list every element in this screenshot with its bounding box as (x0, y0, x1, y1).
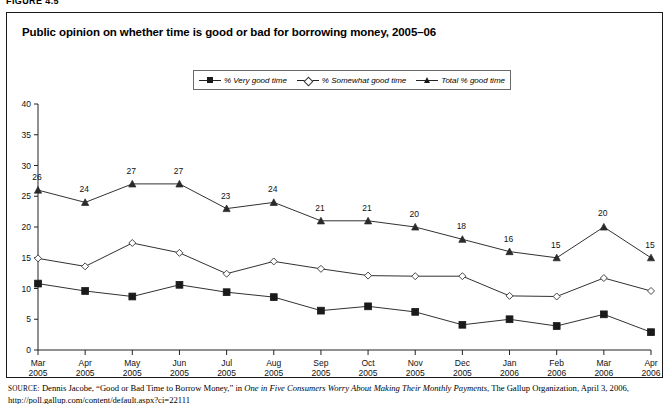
y-tick-label: 0 (26, 345, 31, 355)
data-label: 15 (551, 240, 561, 250)
series-line (38, 243, 651, 297)
data-point-triangle (270, 199, 277, 206)
x-tick-label: Jun (173, 358, 187, 368)
x-tick-label: 2006 (642, 368, 661, 378)
chart-plot-area: 0510152025303540Mar2005Apr2005May2005Jun… (0, 0, 671, 404)
x-tick-label: Jul (221, 358, 232, 368)
data-point-square (35, 280, 42, 287)
data-label: 16 (504, 234, 514, 244)
data-point-square (459, 321, 466, 328)
x-tick-label: 2006 (547, 368, 566, 378)
x-tick-label: 2005 (264, 368, 283, 378)
data-point-diamond (317, 265, 324, 272)
y-tick-label: 10 (22, 284, 32, 294)
chart-svg: 0510152025303540Mar2005Apr2005May2005Jun… (0, 0, 671, 404)
data-point-square (600, 311, 607, 318)
y-tick-label: 15 (22, 253, 32, 263)
source-italic-title: One in Five Consumers Worry About Making… (244, 383, 487, 393)
source-text-a: Dennis Jacobe, “Good or Bad Time to Borr… (40, 383, 244, 393)
data-point-triangle (647, 254, 654, 261)
x-tick-label: 2005 (217, 368, 236, 378)
x-tick-label: Jan (503, 358, 517, 368)
data-point-triangle (600, 223, 607, 230)
x-tick-label: Mar (597, 358, 612, 368)
data-point-square (412, 308, 419, 315)
data-point-square (176, 281, 183, 288)
data-point-diamond (506, 292, 513, 299)
data-label: 20 (409, 209, 419, 219)
data-point-diamond (35, 255, 42, 262)
x-tick-label: Dec (455, 358, 471, 368)
data-label: 24 (268, 184, 278, 194)
y-tick-label: 30 (22, 161, 32, 171)
data-label: 18 (457, 221, 467, 231)
x-tick-label: 2005 (29, 368, 48, 378)
data-point-square (648, 329, 655, 336)
data-label: 21 (362, 203, 372, 213)
x-tick-label: 2005 (359, 368, 378, 378)
x-tick-label: 2005 (406, 368, 425, 378)
data-point-diamond (82, 263, 89, 270)
data-point-square (270, 294, 277, 301)
data-point-diamond (270, 258, 277, 265)
data-label: 24 (79, 184, 89, 194)
data-point-square (506, 316, 513, 323)
y-tick-label: 5 (26, 314, 31, 324)
x-tick-label: Apr (644, 358, 657, 368)
source-text-b: , The Gallup (487, 383, 530, 393)
x-tick-label: 2005 (311, 368, 330, 378)
x-tick-label: Feb (549, 358, 564, 368)
x-tick-label: Oct (361, 358, 375, 368)
x-tick-label: 2005 (170, 368, 189, 378)
x-tick-label: Mar (31, 358, 46, 368)
data-point-diamond (176, 249, 183, 256)
data-point-square (365, 303, 372, 310)
x-tick-label: 2006 (500, 368, 519, 378)
data-point-diamond (459, 273, 466, 280)
data-label: 23 (221, 191, 231, 201)
data-point-square (318, 307, 325, 314)
data-point-diamond (553, 293, 560, 300)
y-tick-label: 25 (22, 191, 32, 201)
data-point-square (223, 289, 230, 296)
data-point-square (553, 323, 560, 330)
x-tick-label: 2005 (453, 368, 472, 378)
x-tick-label: Apr (79, 358, 92, 368)
data-point-square (129, 293, 136, 300)
data-point-diamond (223, 270, 230, 277)
data-label: 27 (127, 166, 137, 176)
x-tick-label: Nov (408, 358, 424, 368)
source-prefix: SOURCE: (8, 385, 40, 393)
data-label: 26 (32, 172, 42, 182)
y-tick-label: 20 (22, 222, 32, 232)
data-point-diamond (648, 287, 655, 294)
x-tick-label: Sep (313, 358, 328, 368)
x-tick-label: 2005 (123, 368, 142, 378)
data-point-diamond (365, 272, 372, 279)
x-tick-label: 2006 (594, 368, 613, 378)
data-point-diamond (129, 239, 136, 246)
source-note: SOURCE: Dennis Jacobe, “Good or Bad Time… (8, 383, 668, 404)
data-label: 15 (645, 240, 655, 250)
x-tick-label: May (124, 358, 141, 368)
data-label: 20 (598, 208, 608, 218)
data-point-diamond (600, 275, 607, 282)
data-point-square (82, 288, 89, 295)
x-tick-label: Aug (266, 358, 281, 368)
y-tick-label: 35 (22, 130, 32, 140)
data-point-triangle (34, 187, 41, 194)
x-tick-label: 2005 (76, 368, 95, 378)
data-label: 21 (315, 203, 325, 213)
data-point-diamond (412, 273, 419, 280)
data-label: 27 (174, 166, 184, 176)
y-tick-label: 40 (22, 99, 32, 109)
